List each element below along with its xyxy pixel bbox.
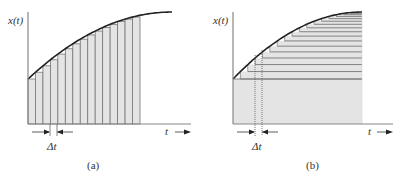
delta-t-arrows-b: [237, 130, 278, 135]
panel-a: [28, 12, 191, 136]
x-label-a: t: [165, 125, 168, 137]
panel-b: [233, 12, 393, 136]
t-arrow-a: [175, 130, 191, 135]
caption-b: (b): [306, 159, 319, 171]
vertical-strips: [28, 17, 140, 124]
y-label-a: x(t): [8, 14, 23, 26]
delta-label-a: Δt: [47, 140, 57, 152]
caption-a: (a): [87, 159, 99, 171]
delta-t-arrows-a: [32, 124, 73, 136]
t-arrow-b: [377, 130, 393, 135]
figure: [0, 0, 405, 177]
y-label-b: x(t): [213, 14, 228, 26]
delta-label-b: Δt: [252, 140, 262, 152]
x-label-b: t: [368, 125, 371, 137]
